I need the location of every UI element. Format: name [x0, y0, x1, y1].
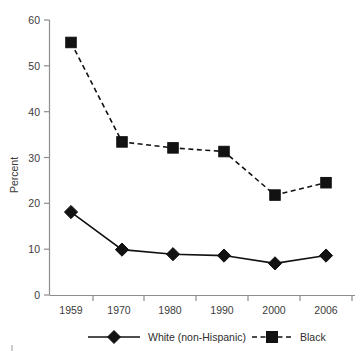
- data-point-marker: [115, 243, 128, 256]
- data-point-marker: [166, 248, 179, 261]
- y-axis-title: Percent: [8, 157, 20, 193]
- data-point-marker: [64, 205, 77, 218]
- y-tick-label: 10: [28, 243, 40, 255]
- x-tick-label: 2000: [262, 304, 286, 316]
- series-white: [64, 205, 332, 270]
- x-axis-ticks: [93, 296, 352, 302]
- x-tick-label: 1970: [107, 304, 131, 316]
- x-tick-label: 1959: [59, 304, 83, 316]
- data-point-marker: [321, 177, 332, 188]
- data-point-marker: [66, 37, 77, 48]
- legend-label-white: White (non-Hispanic): [148, 331, 246, 343]
- series-black: [66, 37, 332, 200]
- x-axis-tick-labels: 1959 1970 1980 1990 2000 2006: [59, 304, 338, 316]
- y-tick-label: 0: [34, 289, 40, 301]
- data-point-marker: [268, 257, 281, 270]
- y-tick-label: 20: [28, 197, 40, 209]
- series-line: [71, 212, 326, 263]
- data-point-marker: [168, 143, 179, 154]
- data-point-marker: [219, 146, 230, 157]
- data-series-layer: [64, 37, 332, 270]
- legend-marker-diamond: [108, 331, 121, 344]
- data-point-marker: [117, 137, 128, 148]
- legend-label-black: Black: [300, 331, 326, 343]
- data-point-marker: [319, 249, 332, 262]
- x-tick-label: 1990: [210, 304, 234, 316]
- legend-marker-square: [267, 332, 278, 343]
- x-tick-label: 1980: [158, 304, 182, 316]
- data-point-marker: [217, 249, 230, 262]
- y-axis-tick-labels: 60 50 40 30 20 10 0: [28, 14, 40, 301]
- y-tick-label: 50: [28, 60, 40, 72]
- chart-legend: White (non-Hispanic) Black: [88, 331, 326, 344]
- data-point-marker: [270, 190, 281, 201]
- y-axis-ticks: [44, 20, 50, 295]
- line-chart-canvas: 60 50 40 30 20 10 0 Percent 1959 1970 19…: [0, 0, 362, 353]
- y-tick-label: 40: [28, 106, 40, 118]
- y-tick-label: 30: [28, 152, 40, 164]
- chart-figure: 60 50 40 30 20 10 0 Percent 1959 1970 19…: [0, 0, 362, 353]
- series-line: [71, 42, 326, 195]
- y-tick-label: 60: [28, 14, 40, 26]
- x-tick-label: 2006: [314, 304, 338, 316]
